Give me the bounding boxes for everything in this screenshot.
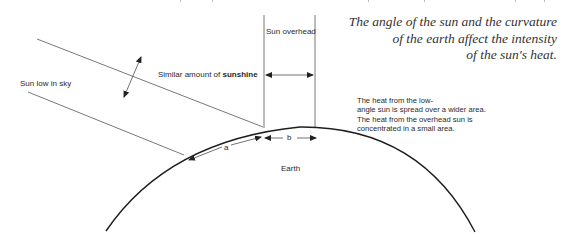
diagram-caption: The angle of the sun and the curvature o…: [349, 14, 557, 64]
note-line: The heat from the low-: [357, 96, 486, 105]
sun-low-label: Sun low in sky: [20, 80, 71, 88]
note-line: concentrated in a small area.: [357, 124, 486, 133]
note-line: angle sun is spread over a wider area.: [357, 105, 486, 114]
low-sun-ray-lower: [28, 92, 184, 155]
sun-overhead-label: Sun overhead: [266, 28, 316, 36]
note-line: The heat from the overhead sun is: [357, 115, 486, 124]
arc-a-arrow-left: [189, 147, 222, 160]
similar-prefix: Similar amount of: [158, 70, 222, 79]
low-sun-width-arrow: [124, 57, 141, 97]
earth-curve: [106, 127, 475, 232]
sunshine-word: sunshine: [222, 70, 257, 79]
heat-explanation-note: The heat from the low- angle sun is spre…: [357, 96, 486, 133]
arc-a-label: a: [224, 144, 228, 152]
arc-b-label: b: [287, 134, 291, 142]
arc-a-arrow-right: [231, 137, 261, 145]
caption-line: of the sun's heat.: [349, 47, 557, 64]
similar-sunshine-label: Similar amount of sunshine: [158, 71, 258, 79]
caption-line: The angle of the sun and the curvature: [349, 14, 557, 31]
caption-line: of the earth affect the intensity: [349, 31, 557, 48]
earth-label: Earth: [281, 165, 300, 173]
cropped-text-fragments: [180, 0, 545, 2]
